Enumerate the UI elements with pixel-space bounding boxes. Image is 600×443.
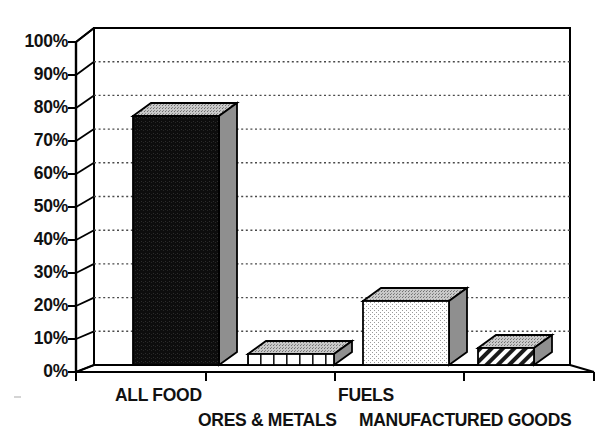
y-tick-80: 80% [12, 99, 68, 117]
y-tick-50: 50% [12, 198, 68, 216]
y-tick-30: 30% [12, 264, 68, 282]
y-tick-90: 90% [12, 66, 68, 84]
x-label-fuels: FUELS [338, 387, 394, 405]
y-tick-40: 40% [12, 231, 68, 249]
y-axis-labels: 100% 90% 80% 70% 60% 50% 40% 30% 20% 10%… [12, 0, 68, 443]
y-tick-70: 70% [12, 132, 68, 150]
x-label-manufactured-goods: MANUFACTURED GOODS [359, 412, 571, 430]
bar-manufactured-goods [478, 335, 552, 365]
y-tick-0: 0% [12, 363, 68, 381]
bar-ores-metals [248, 341, 352, 365]
y-tick-20: 20% [12, 297, 68, 315]
y-tick-10: 10% [12, 330, 68, 348]
y-tick-100: 100% [12, 33, 68, 51]
y-axis [68, 28, 94, 372]
x-label-all-food: ALL FOOD [115, 387, 202, 405]
bar-all-food [133, 103, 237, 365]
x-label-ores-metals: ORES & METALS [198, 412, 337, 430]
y-tick-60: 60% [12, 165, 68, 183]
x-axis-ticks [76, 372, 594, 381]
bar-fuels [363, 288, 467, 365]
chart-canvas [0, 0, 600, 443]
bar-chart: 100% 90% 80% 70% 60% 50% 40% 30% 20% 10%… [0, 0, 600, 443]
